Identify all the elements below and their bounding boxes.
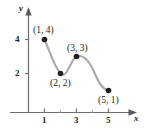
data-point-5-1[interactable] xyxy=(106,88,112,94)
x-tick-label-5: 5 xyxy=(106,116,111,125)
y-tick-label-2: 2 xyxy=(15,69,20,78)
point-label-1-4: (1, 4) xyxy=(33,26,54,36)
point-label-2-2: (2, 2) xyxy=(50,79,71,89)
x-tick-label-3: 3 xyxy=(74,116,79,125)
x-axis-label: x xyxy=(134,114,139,123)
y-tick-label-4: 4 xyxy=(15,35,20,44)
data-point-1-4[interactable] xyxy=(42,37,48,43)
plot-canvas xyxy=(0,0,144,132)
point-label-3-3: (3, 3) xyxy=(67,44,88,54)
point-label-5-1: (5, 1) xyxy=(98,96,119,106)
y-axis-label: y xyxy=(19,4,23,13)
x-tick-label-1: 1 xyxy=(42,116,47,125)
data-point-2-2[interactable] xyxy=(58,71,64,77)
graph-figure: y x 4 2 1 3 5 (1, 4) (2, 2) (3, 3) (5, 1… xyxy=(0,0,144,132)
y-axis-arrow-icon xyxy=(25,7,31,16)
data-point-3-3[interactable] xyxy=(74,54,80,60)
